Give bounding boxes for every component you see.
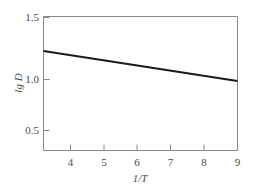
y-tick-label-0.5: 0.5 [25, 124, 39, 136]
y-axis-ticks [44, 18, 50, 131]
x-tick-label-6: 6 [134, 156, 140, 168]
y-tick-label-1.5: 1.5 [25, 11, 39, 23]
x-axis-title: 1/T [133, 172, 149, 184]
x-tick-label-4: 4 [68, 156, 74, 168]
y-axis-title: lg D [12, 73, 24, 92]
chart-canvas: 1.5 1.0 0.5 4 5 6 7 8 9 1/T lg D [0, 0, 259, 189]
x-tick-label-9: 9 [235, 156, 241, 168]
x-tick-label-8: 8 [201, 156, 207, 168]
chart-figure: 1.5 1.0 0.5 4 5 6 7 8 9 1/T lg D [0, 0, 259, 189]
x-axis-ticks [71, 145, 238, 151]
y-tick-labels: 1.5 1.0 0.5 [25, 11, 39, 136]
y-tick-label-1.0: 1.0 [25, 73, 39, 85]
plot-frame [44, 17, 238, 151]
x-tick-labels: 4 5 6 7 8 9 [68, 156, 241, 168]
x-tick-label-7: 7 [168, 156, 174, 168]
x-tick-label-5: 5 [101, 156, 107, 168]
data-series-line [44, 51, 238, 81]
